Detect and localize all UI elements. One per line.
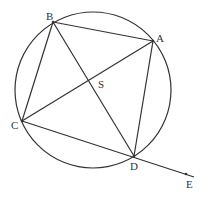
- label-s: S: [98, 78, 104, 90]
- point-a-dot: [152, 40, 155, 43]
- segment-bc: [22, 22, 53, 121]
- segment-da: [134, 41, 153, 156]
- diagonal-ac: [22, 41, 153, 121]
- segment-cd-extended: [22, 121, 194, 177]
- point-d-dot: [133, 155, 136, 158]
- label-a: A: [156, 32, 164, 44]
- label-c: C: [11, 119, 18, 131]
- label-b: B: [46, 10, 53, 22]
- point-c-dot: [21, 120, 24, 123]
- segment-ab: [53, 22, 153, 41]
- label-d: D: [130, 160, 138, 172]
- geometry-diagram: B A S C D E: [0, 0, 209, 201]
- point-e-dot: [185, 173, 188, 176]
- label-e: E: [186, 178, 193, 190]
- diagonal-bd: [53, 22, 134, 156]
